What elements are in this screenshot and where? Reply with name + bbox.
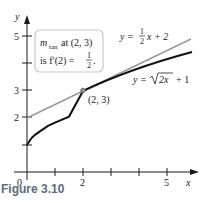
- svg-text:y =: y =: [119, 31, 134, 42]
- figure-caption: Figure 3.10: [1, 182, 64, 196]
- y-tick-label-5: 5: [14, 31, 19, 42]
- tangent-point-marker: [81, 88, 86, 93]
- curve-equation: y = 2x + 1: [132, 73, 189, 85]
- svg-text:+ 1: + 1: [176, 74, 189, 85]
- box-is: is f′(2) =: [40, 55, 75, 67]
- svg-text:2x: 2x: [159, 74, 169, 85]
- figure-plot: 0 2 5 x 5 3 2 y (2, 3) m tan at (2, 3) i…: [0, 0, 204, 203]
- x-tick-label-5: 5: [164, 177, 169, 188]
- svg-text:y =: y =: [132, 74, 147, 85]
- box-num: 1: [87, 51, 91, 60]
- x-axis-arrow-icon: [190, 169, 199, 175]
- x-axis-label: x: [185, 177, 191, 188]
- svg-text:2: 2: [140, 37, 144, 46]
- box-m: m: [40, 37, 47, 48]
- box-sub: tan: [49, 43, 58, 51]
- x-tick-label-2: 2: [80, 177, 85, 188]
- y-axis-arrow-icon: [24, 15, 30, 24]
- box-period: .: [93, 55, 96, 66]
- y-tick-label-2: 2: [14, 112, 19, 123]
- box-at: at (2, 3): [61, 37, 92, 49]
- curve-sqrt: [27, 91, 83, 145]
- annotation-box: m tan at (2, 3) is f′(2) = 1 2 .: [35, 30, 103, 72]
- svg-text:1: 1: [140, 27, 144, 36]
- y-axis: [22, 15, 32, 180]
- svg-text:x + 2: x + 2: [146, 31, 168, 42]
- box-den: 2: [87, 61, 91, 70]
- x-axis: [14, 168, 199, 176]
- point-label: (2, 3): [88, 94, 110, 106]
- y-tick-label-3: 3: [14, 85, 19, 96]
- tangent-equation: y = 1 2 x + 2: [119, 27, 168, 46]
- y-axis-label: y: [14, 11, 20, 22]
